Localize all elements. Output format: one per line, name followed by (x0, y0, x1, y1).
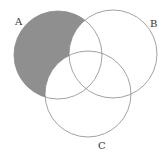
label-a: A (14, 16, 23, 27)
label-c: C (98, 140, 106, 151)
shaded-region-a-only (0, 0, 167, 157)
venn-diagram: A B C (0, 0, 167, 157)
label-b: B (150, 18, 157, 29)
